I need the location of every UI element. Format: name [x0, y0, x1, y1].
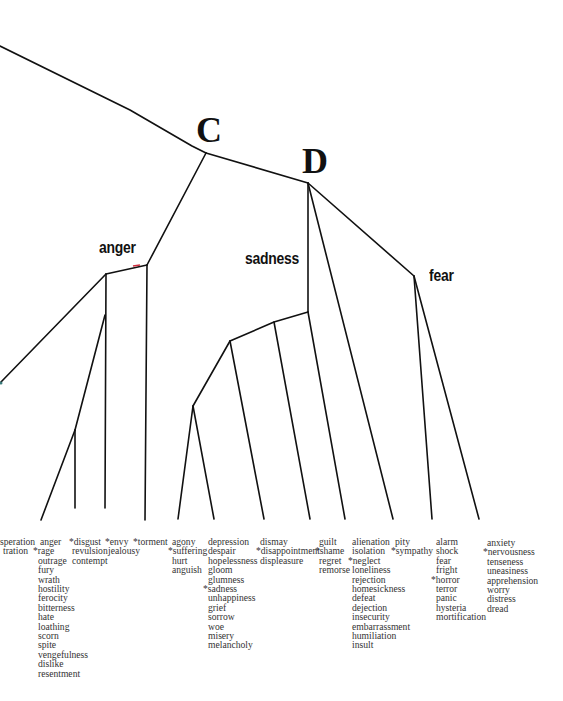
edge-sadness-split [230, 312, 308, 341]
leaf-cluster-torment: *torment [133, 537, 168, 546]
edge-neglect [308, 312, 345, 519]
leaf-cluster-suffering: agony *suffering hurt anguish [168, 537, 207, 575]
leaf-word: melancholy [208, 640, 258, 649]
leaf-cluster-horror: alarm shock fear fright *horror terror p… [433, 537, 486, 622]
node-label-c: C [196, 109, 222, 151]
leaf-cluster-disappointment: dismay *disappointment displeasure [256, 537, 320, 565]
leaf-word: insult [348, 640, 410, 649]
edge-rage [41, 430, 75, 520]
edge-disappointment [230, 341, 264, 519]
node-label-anger: anger [99, 238, 136, 258]
edge-c-d [206, 153, 308, 183]
leaf-cluster-sadness: depression despair hopelessness gloom gl… [208, 537, 258, 650]
edge-c-anger [147, 153, 206, 265]
edge-anger-frustration [1, 274, 106, 382]
edge-shame [274, 322, 310, 519]
leaf-cluster-frustration: speration tration [0, 537, 35, 556]
leaf-word: tration [0, 546, 35, 555]
edge-sympathy [308, 183, 393, 519]
leaf-word: *torment [133, 537, 168, 546]
edge-torment [145, 265, 147, 520]
leaf-word: mortification [433, 612, 486, 621]
edge-anger-split [106, 265, 147, 274]
leaf-cluster-disgust: *disgust revulsion contempt [69, 537, 108, 565]
leaf-word: displeasure [256, 556, 320, 565]
edge-root-c [0, 46, 206, 153]
edge-suffering [178, 406, 193, 519]
leaf-word: jealousy [105, 546, 140, 555]
leaf-word: dread [483, 604, 538, 613]
edge-sad-suffering-node [193, 341, 230, 406]
node-label-fear: fear [429, 266, 454, 286]
node-label-d: D [302, 140, 328, 182]
leaf-word: *sympathy [391, 546, 433, 555]
leaf-word: anguish [168, 565, 207, 574]
leaf-cluster-nervousness: anxiety *nervousness tenseness uneasines… [483, 538, 538, 613]
edge-rage-envy-node [75, 315, 105, 430]
leaf-word: contempt [69, 556, 108, 565]
node-label-sadness: sadness [245, 249, 299, 269]
leaf-word: remorse [315, 565, 350, 574]
leaf-word: resentment [38, 669, 88, 678]
leaf-cluster-shame: guilt *shame regret remorse [315, 537, 350, 575]
leaf-cluster-sympathy: pity *sympathy [391, 537, 433, 556]
edge-sadness-leaf [193, 406, 214, 519]
edge-d-fear [308, 183, 414, 276]
edge-disgust [105, 274, 106, 508]
